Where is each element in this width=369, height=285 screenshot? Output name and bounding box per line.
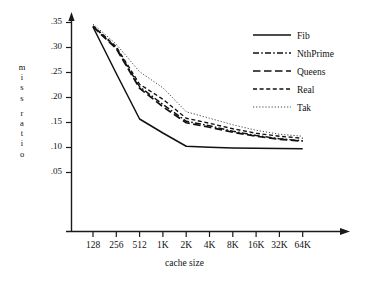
- y-axis-title-char: i: [14, 138, 30, 148]
- y-tick-label: .15: [40, 116, 62, 126]
- y-tick-label: .05: [40, 166, 62, 176]
- series-line-real: [93, 26, 303, 139]
- x-axis-title: cache size: [0, 258, 369, 268]
- y-tick-label: .30: [40, 41, 62, 51]
- x-tick-marks: [93, 232, 303, 238]
- x-axis: [66, 228, 350, 235]
- legend-item-queens: Queens: [297, 67, 326, 77]
- legend-item-fib: Fib: [297, 31, 310, 41]
- y-axis-title-char: m: [14, 62, 30, 72]
- chart-container: .35 .30 .25 .20 .15 .10 .05 128 256 512 …: [0, 0, 369, 285]
- legend-item-tak: Tak: [297, 103, 311, 113]
- series-line-tak: [93, 24, 303, 136]
- y-axis-title-char: t: [14, 128, 30, 138]
- legend-item-real: Real: [297, 85, 314, 95]
- y-axis-title-char: o: [14, 149, 30, 159]
- y-tick-label: .35: [40, 16, 62, 26]
- y-tick-label: .25: [40, 66, 62, 76]
- y-tick-label: .10: [40, 141, 62, 151]
- y-axis-title-char: i: [14, 72, 30, 82]
- y-axis-title-char: r: [14, 108, 30, 118]
- series-line-fib: [93, 27, 303, 149]
- legend-item-nthprime: NthPrime: [297, 49, 334, 59]
- x-tick-label: 64K: [283, 240, 323, 250]
- y-tick-marks: [66, 23, 72, 173]
- y-axis-title-char: s: [14, 82, 30, 92]
- y-axis-title: m i s s r a t i o: [14, 62, 30, 159]
- y-tick-label: .20: [40, 91, 62, 101]
- legend-sample-lines: [253, 35, 291, 107]
- data-series-group: [93, 24, 303, 149]
- series-line-nthprime: [93, 26, 303, 141]
- y-axis-title-char: a: [14, 118, 30, 128]
- y-axis-title-char: s: [14, 93, 30, 103]
